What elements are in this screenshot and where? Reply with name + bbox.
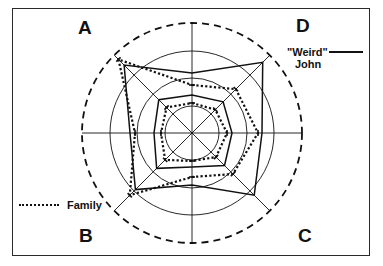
- legend-weird-john: "Weird" John: [287, 46, 363, 70]
- radar-grid: [82, 23, 302, 243]
- legend-family: Family: [19, 199, 102, 211]
- radar-chart: [0, 0, 383, 266]
- quadrant-label-d: D: [296, 16, 310, 35]
- radar-series-polygon: [124, 62, 263, 195]
- legend-family-label: Family: [67, 199, 102, 211]
- quadrant-label-b: B: [79, 226, 93, 245]
- quadrant-label-c: C: [298, 226, 312, 245]
- spoke-se: [192, 133, 270, 211]
- legend-weird-john-label-line1: "Weird": [287, 46, 328, 58]
- spoke-sw: [114, 133, 192, 211]
- legend-weird-john-row: "Weird": [287, 46, 363, 58]
- dotted-line-icon: [19, 204, 59, 206]
- legend-weird-john-label-line2: John: [295, 58, 321, 70]
- solid-line-icon: [329, 51, 363, 53]
- quadrant-label-a: A: [78, 18, 92, 37]
- figure-canvas: A D B C "Weird" John Family: [0, 0, 383, 266]
